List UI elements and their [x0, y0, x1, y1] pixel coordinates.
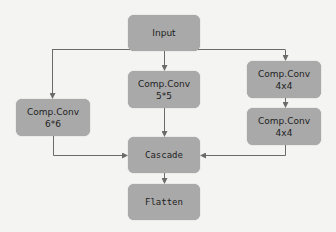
node-conv-5x5: Comp.Conv 5*5: [128, 71, 200, 108]
node-cascade-label: Cascade: [145, 149, 183, 161]
node-conv-4x4-second: Comp.Conv 4x4: [247, 108, 321, 145]
node-conv-5x5-size: 5*5: [156, 90, 172, 102]
node-conv-6x6-label: Comp.Conv: [27, 106, 79, 118]
node-input: Input: [128, 15, 200, 51]
edge-conv6-cascade: [54, 136, 128, 156]
node-conv-6x6: Comp.Conv 6*6: [16, 99, 90, 136]
node-conv-4x4-second-label: Comp.Conv: [258, 115, 310, 127]
network-diagram: Input Comp.Conv 5*5 Comp.Conv 6*6 Comp.C…: [0, 0, 336, 232]
node-conv-4x4-first-size: 4x4: [276, 80, 293, 92]
node-conv-4x4-second-size: 4x4: [276, 127, 293, 139]
node-conv-4x4-first: Comp.Conv 4x4: [247, 61, 321, 98]
node-flatten-label: Flatten: [145, 196, 183, 208]
node-conv-6x6-size: 6*6: [45, 118, 61, 130]
node-flatten: Flatten: [128, 184, 200, 220]
node-cascade: Cascade: [128, 137, 200, 173]
node-conv-4x4-first-label: Comp.Conv: [258, 68, 310, 80]
edge-conv4b-cascade: [201, 145, 286, 156]
node-input-label: Input: [152, 27, 175, 39]
node-conv-5x5-label: Comp.Conv: [138, 78, 190, 90]
